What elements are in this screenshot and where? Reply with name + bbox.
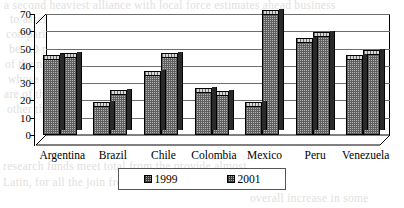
y-tick-mark	[30, 118, 35, 119]
gridline	[46, 14, 390, 15]
x-axis-category-labels: ArgentinaBrazilChileColombiaMexicoPeruVe…	[36, 148, 390, 164]
x-tick-label: Mexico	[247, 148, 282, 162]
x-tick-label: Colombia	[191, 148, 236, 162]
legend-entry: 2001	[227, 173, 261, 185]
plot-area	[36, 14, 390, 146]
hatched-square-swatch	[144, 175, 152, 183]
gridlines	[46, 14, 390, 136]
x-tick-label: Brazil	[99, 148, 127, 162]
gridline	[46, 100, 390, 101]
gridline	[46, 66, 390, 67]
gridline	[46, 83, 390, 84]
y-tick-mark	[30, 66, 35, 67]
x-tick-label: Chile	[151, 148, 176, 162]
y-axis-line	[34, 14, 35, 146]
y-tick-mark	[30, 83, 35, 84]
bleed-line: overall increase in some	[250, 192, 369, 204]
chart-legend: 19992001	[118, 168, 286, 190]
gridline	[46, 31, 390, 32]
bleed-line: a second heaviest alliance with local fo…	[4, 0, 336, 11]
gridline	[46, 49, 390, 50]
gridline	[46, 118, 390, 119]
y-axis: 010203040506070	[0, 14, 36, 146]
legend-entry: 1999	[144, 173, 178, 185]
x-tick-label: Venezuela	[342, 148, 389, 162]
y-tick-mark	[30, 49, 35, 50]
hatched-square-swatch	[227, 175, 235, 183]
y-tick-mark	[30, 135, 35, 136]
legend-label: 2001	[238, 173, 261, 185]
y-tick-mark	[30, 31, 35, 32]
bar-chart-figure: a second heaviest alliance with local fo…	[0, 0, 404, 208]
x-tick-label: Argentina	[39, 148, 85, 162]
y-tick-mark	[30, 14, 35, 15]
legend-label: 1999	[155, 173, 178, 185]
x-tick-label: Peru	[305, 148, 326, 162]
y-tick-mark	[30, 100, 35, 101]
